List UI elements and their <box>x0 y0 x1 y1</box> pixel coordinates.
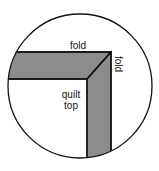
quilt-top-label-line1: quilt <box>62 89 81 100</box>
top-fold-label: fold <box>70 40 86 51</box>
diagram-svg: fold fold quilt top <box>0 0 159 171</box>
quilt-corner-diagram: fold fold quilt top <box>0 0 159 171</box>
side-fold-label: fold <box>113 56 124 72</box>
quilt-top-label-line2: top <box>64 100 78 111</box>
magnifier-circle-fill <box>8 14 152 158</box>
